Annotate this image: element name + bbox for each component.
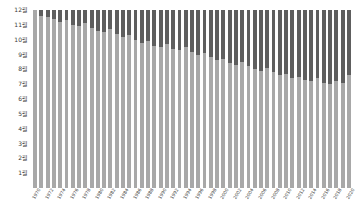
bar-segment-upper [152, 10, 156, 46]
x-tick-label: 1978 [83, 188, 93, 200]
bar-chart: 1월2월3월4월5월6월7월8월9월10월11월12월 197019721974… [0, 0, 361, 215]
bar-1974 [58, 10, 62, 188]
x-tick-label: 1998 [208, 188, 218, 200]
y-tick-label: 10월 [14, 37, 28, 43]
bar-segment-upper [290, 10, 294, 78]
bar-segment-lower [171, 49, 175, 188]
bar-segment-upper [347, 10, 351, 75]
bar-1994 [184, 10, 188, 188]
bar-segment-lower [265, 68, 269, 188]
x-tick-label: 2010 [283, 188, 293, 200]
bar-segment-lower [146, 41, 150, 188]
bar-2005 [253, 10, 257, 188]
bar-segment-upper [322, 10, 326, 83]
bar-segment-upper [108, 10, 112, 29]
bar-segment-upper [121, 10, 125, 37]
bar-segment-lower [140, 43, 144, 188]
bar-segment-lower [102, 32, 106, 188]
x-tick-label: 1984 [120, 188, 130, 200]
bar-segment-upper [77, 10, 81, 26]
bar-segment-lower [165, 44, 169, 188]
bar-segment-upper [272, 10, 276, 72]
bar-segment-upper [171, 10, 175, 49]
bar-segment-upper [334, 10, 338, 81]
bar-segment-upper [159, 10, 163, 47]
x-tick-label: 2016 [321, 188, 331, 200]
bar-2001 [228, 10, 232, 188]
bar-segment-lower [90, 28, 94, 188]
bar-1990 [159, 10, 163, 188]
bar-1972 [46, 10, 50, 188]
bar-segment-lower [303, 80, 307, 188]
bar-1993 [178, 10, 182, 188]
bar-2003 [240, 10, 244, 188]
bar-segment-upper [259, 10, 263, 71]
y-tick-label: 1월 [18, 170, 28, 176]
bar-2019 [341, 10, 345, 188]
x-tick-label: 2008 [271, 188, 281, 200]
bar-2017 [328, 10, 332, 188]
bar-1985 [127, 10, 131, 188]
bar-segment-upper [303, 10, 307, 80]
bar-2020 [347, 10, 351, 188]
x-tick-label: 1994 [183, 188, 193, 200]
bar-segment-upper [46, 10, 50, 17]
bar-1983 [115, 10, 119, 188]
bar-segment-lower [159, 47, 163, 188]
bar-1981 [102, 10, 106, 188]
bar-segment-upper [284, 10, 288, 74]
x-tick-label: 2004 [246, 188, 256, 200]
bar-segment-lower [190, 52, 194, 188]
bar-segment-upper [196, 10, 200, 55]
bar-segment-lower [71, 25, 75, 188]
bar-segment-lower [334, 81, 338, 188]
x-tick-label: 1996 [196, 188, 206, 200]
bar-1998 [209, 10, 213, 188]
x-tick-label: 2014 [308, 188, 318, 200]
bar-1982 [108, 10, 112, 188]
bar-segment-upper [140, 10, 144, 43]
x-tick-label: 2006 [258, 188, 268, 200]
bar-segment-lower [328, 84, 332, 188]
bar-segment-lower [46, 17, 50, 188]
bar-1992 [171, 10, 175, 188]
x-tick-label: 2012 [296, 188, 306, 200]
bar-segment-lower [33, 10, 37, 188]
bar-segment-lower [77, 26, 81, 188]
bar-1971 [39, 10, 43, 188]
bar-segment-lower [178, 50, 182, 188]
bar-segment-upper [127, 10, 131, 35]
bar-2010 [284, 10, 288, 188]
bar-segment-upper [96, 10, 100, 31]
bar-segment-lower [253, 69, 257, 188]
x-tick-label: 1992 [170, 188, 180, 200]
bar-1973 [52, 10, 56, 188]
x-tick-label: 1986 [133, 188, 143, 200]
bar-segment-upper [83, 10, 87, 23]
bar-1999 [215, 10, 219, 188]
bar-segment-lower [203, 53, 207, 188]
bar-segment-lower [322, 83, 326, 188]
bar-segment-lower [284, 74, 288, 188]
bar-segment-lower [209, 57, 213, 188]
bar-segment-upper [90, 10, 94, 28]
bar-1989 [152, 10, 156, 188]
y-tick-label: 7월 [18, 81, 28, 87]
bar-segment-lower [297, 77, 301, 188]
bar-segment-upper [102, 10, 106, 32]
bar-1980 [96, 10, 100, 188]
bar-segment-upper [297, 10, 301, 77]
bar-1977 [77, 10, 81, 188]
y-tick-label: 9월 [18, 52, 28, 58]
x-tick-label: 1982 [108, 188, 118, 200]
y-tick-label: 8월 [18, 66, 28, 72]
bar-segment-upper [316, 10, 320, 78]
bar-2014 [309, 10, 313, 188]
bar-segment-upper [165, 10, 169, 44]
bar-segment-upper [247, 10, 251, 66]
bar-segment-lower [259, 71, 263, 188]
bar-segment-lower [108, 29, 112, 188]
bar-segment-lower [152, 46, 156, 188]
bar-segment-upper [341, 10, 345, 83]
x-tick-label: 2018 [334, 188, 344, 200]
